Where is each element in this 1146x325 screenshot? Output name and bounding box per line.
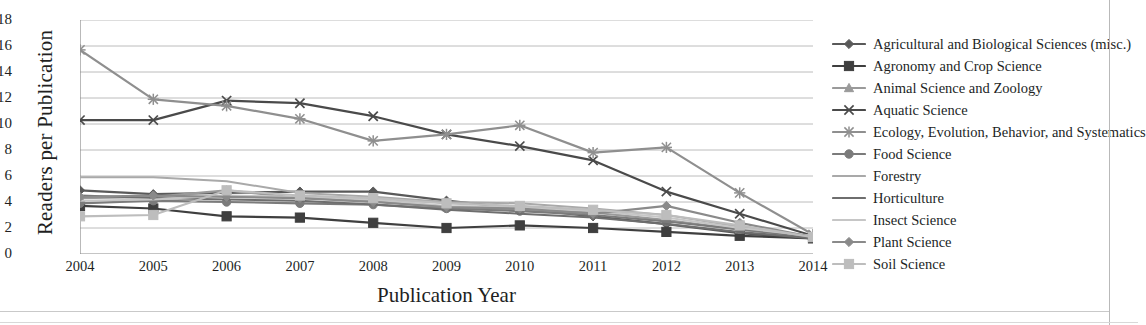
x-tick-label: 2005 — [118, 259, 188, 274]
page-footer-rule — [0, 311, 1109, 312]
y-tick-label: 12 — [0, 90, 12, 105]
legend-marker-diamond-icon — [832, 36, 866, 52]
y-tick-label: 10 — [0, 116, 12, 131]
legend-item: Soil Science — [832, 253, 1132, 275]
legend-item: Aquatic Science — [832, 99, 1132, 121]
y-axis-label: Readers per Publication — [33, 18, 58, 248]
legend-marker-star-icon — [832, 124, 866, 140]
x-tick-label: 2012 — [631, 259, 701, 274]
legend-marker-none-icon — [832, 190, 866, 206]
legend-marker-circle-icon — [832, 146, 866, 162]
legend-item: Horticulture — [832, 187, 1132, 209]
x-tick-label: 2013 — [705, 259, 775, 274]
series-line — [80, 96, 813, 240]
legend-item: Plant Science — [832, 231, 1132, 253]
line-chart: Readers per Publication Publication Year… — [0, 0, 830, 325]
legend-marker-none-icon — [832, 168, 866, 184]
legend-marker-x-icon — [832, 102, 866, 118]
legend-item: Food Science — [832, 143, 1132, 165]
legend-label: Animal Science and Zoology — [873, 81, 1043, 96]
x-tick-label: 2006 — [192, 259, 262, 274]
legend-marker-square-icon — [832, 58, 866, 74]
y-tick-label: 14 — [0, 64, 12, 79]
plot-area — [80, 20, 813, 254]
legend-item: Agronomy and Crop Science — [832, 55, 1132, 77]
legend-marker-square-icon — [832, 256, 866, 272]
legend-item: Forestry — [832, 165, 1132, 187]
y-tick-label: 4 — [0, 194, 12, 209]
y-tick-label: 0 — [0, 246, 12, 261]
x-tick-label: 2010 — [485, 259, 555, 274]
legend-label: Food Science — [873, 147, 952, 162]
page-bottom-rule — [0, 322, 1138, 323]
legend-item: Insect Science — [832, 209, 1132, 231]
x-tick-label: 2008 — [338, 259, 408, 274]
legend-label: Forestry — [873, 169, 921, 184]
legend-label: Horticulture — [873, 191, 944, 206]
legend-marker-triangle-icon — [832, 80, 866, 96]
legend-item: Agricultural and Biological Sciences (mi… — [832, 33, 1132, 55]
x-axis-label: Publication Year — [80, 283, 813, 308]
legend-label: Aquatic Science — [873, 103, 968, 118]
y-tick-label: 2 — [0, 220, 12, 235]
y-tick-label: 16 — [0, 38, 12, 53]
plot-svg — [80, 20, 813, 254]
x-tick-label: 2009 — [412, 259, 482, 274]
x-tick-label: 2007 — [265, 259, 335, 274]
y-tick-label: 8 — [0, 142, 12, 157]
y-tick-label: 18 — [0, 12, 12, 27]
legend-item: Animal Science and Zoology — [832, 77, 1132, 99]
legend: Agricultural and Biological Sciences (mi… — [832, 33, 1132, 275]
legend-label: Agronomy and Crop Science — [873, 59, 1042, 74]
legend-label: Agricultural and Biological Sciences (mi… — [873, 37, 1131, 52]
x-tick-label: 2011 — [558, 259, 628, 274]
x-tick-label: 2004 — [45, 259, 115, 274]
legend-marker-none-icon — [832, 212, 866, 228]
y-tick-label: 6 — [0, 168, 12, 183]
legend-label: Insect Science — [873, 213, 956, 228]
legend-item: Ecology, Evolution, Behavior, and System… — [832, 121, 1132, 143]
page-edge-line — [1109, 0, 1110, 325]
legend-marker-diamond-icon — [832, 234, 866, 250]
legend-label: Soil Science — [873, 257, 945, 272]
legend-label: Ecology, Evolution, Behavior, and System… — [873, 125, 1146, 140]
legend-label: Plant Science — [873, 235, 952, 250]
